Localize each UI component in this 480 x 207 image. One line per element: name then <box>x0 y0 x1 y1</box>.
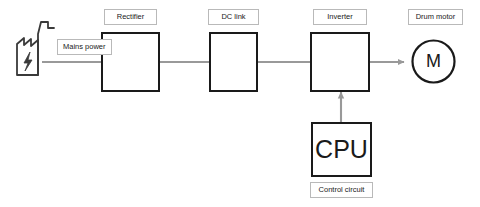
dc-link-block <box>209 32 258 92</box>
label-mains-power: Mains power <box>57 39 112 55</box>
label-dc-link: DC link <box>208 9 259 25</box>
label-drum-motor: Drum motor <box>408 9 463 25</box>
label-rectifier: Rectifier <box>104 9 157 25</box>
label-inverter: Inverter <box>313 9 367 25</box>
label-control-circuit: Control circuit <box>310 182 373 198</box>
factory-lightning-icon <box>17 22 54 75</box>
cpu-label: CPU <box>311 122 372 177</box>
inverter-block <box>310 32 370 92</box>
motor-label: M <box>413 41 454 82</box>
drive-block-diagram: CPU M Mains power Rectifier DC link Inve… <box>0 0 480 207</box>
